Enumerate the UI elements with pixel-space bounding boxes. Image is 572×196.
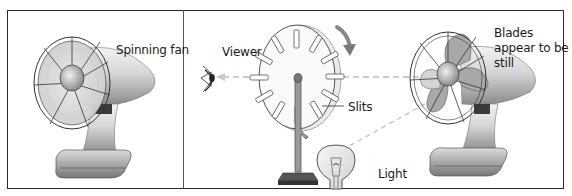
light-bulb-icon bbox=[317, 145, 355, 189]
slits-label: Slits bbox=[348, 100, 372, 114]
spinning-fan bbox=[34, 37, 155, 178]
light-label: Light bbox=[378, 167, 407, 181]
spinning-fan-label: Spinning fan bbox=[116, 43, 189, 57]
diagram-artwork bbox=[0, 0, 572, 196]
rotation-arrow-icon bbox=[337, 27, 356, 56]
blades-still-label: Blades appear to be still bbox=[494, 26, 572, 71]
ray-arrowhead-icon bbox=[216, 73, 225, 81]
viewer-label: Viewer bbox=[222, 45, 262, 59]
eye-icon bbox=[201, 66, 215, 92]
